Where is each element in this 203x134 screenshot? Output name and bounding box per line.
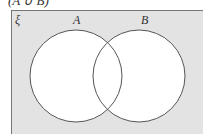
universal-set-label: ξ [15, 13, 21, 27]
set-a-label: A [72, 13, 81, 27]
set-b-label: B [141, 13, 149, 27]
venn-diagram: ξ A B [0, 0, 203, 134]
set-b-circle [93, 30, 185, 122]
